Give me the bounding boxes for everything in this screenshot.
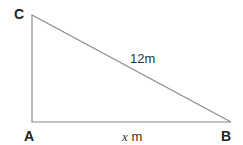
hypotenuse-length-label: 12m [130,51,155,66]
base-length-label: x m [121,129,142,144]
vertex-label-b: B [221,128,231,144]
triangle-diagram: C A B 12m x m [0,0,243,145]
triangle-abc [32,15,231,122]
vertex-label-c: C [14,6,24,22]
base-unit: m [128,129,142,144]
vertex-label-a: A [24,128,34,144]
